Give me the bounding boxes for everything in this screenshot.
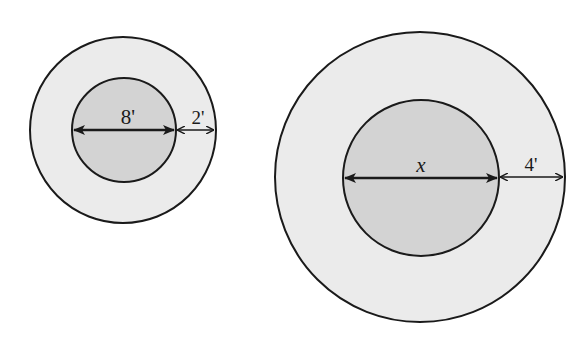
small-figure: 8' 2' [30, 37, 216, 223]
large-diameter-label: x [415, 153, 426, 177]
large-figure: x 4' [275, 32, 565, 322]
concentric-circles-diagram: 8' 2' x 4' [0, 0, 588, 351]
small-ring-width-label: 2' [192, 107, 205, 128]
small-diameter-label: 8' [121, 105, 135, 129]
large-ring-width-label: 4' [525, 154, 538, 175]
